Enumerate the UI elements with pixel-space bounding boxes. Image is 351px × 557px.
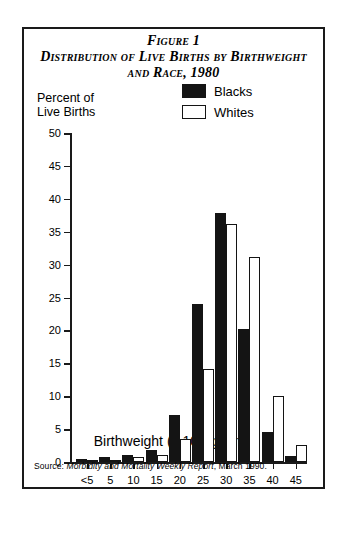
bar-whites-lt5 xyxy=(87,460,98,462)
legend-item-whites: Whites xyxy=(182,103,254,121)
figure-title-line-1: Distribution of Live Births by Birthweig… xyxy=(24,49,323,65)
x-tick xyxy=(273,463,275,469)
legend-label-blacks: Blacks xyxy=(214,84,252,99)
plot-area: 05101520253035404550 <551015202530354045 xyxy=(70,133,305,462)
bar-blacks-40 xyxy=(262,432,273,462)
legend-label-whites: Whites xyxy=(214,105,254,120)
source-date: , March 1990. xyxy=(214,461,267,471)
bar-blacks-20 xyxy=(169,415,180,462)
x-tick-label: 45 xyxy=(281,474,311,486)
bar-whites-35 xyxy=(249,257,260,462)
bar-blacks-35 xyxy=(238,329,249,462)
y-tick xyxy=(64,363,70,365)
y-tick-label: 50 xyxy=(37,128,61,138)
y-tick-label: 35 xyxy=(37,227,61,237)
y-tick xyxy=(64,265,70,267)
y-tick xyxy=(64,199,70,201)
bar-blacks-5 xyxy=(99,457,110,462)
y-tick xyxy=(64,298,70,300)
figure-number: Figure 1 xyxy=(24,33,323,49)
y-tick-label: 30 xyxy=(37,260,61,270)
y-tick xyxy=(64,396,70,398)
y-tick-label: 10 xyxy=(37,391,61,401)
figure-title-line-2: and Race, 1980 xyxy=(24,65,323,81)
y-tick-label: 15 xyxy=(37,358,61,368)
legend-item-blacks: Blacks xyxy=(182,82,254,100)
bar-whites-15 xyxy=(157,455,168,462)
y-tick xyxy=(64,166,70,168)
source-note: Source: Morbidity and Mortality Weekly R… xyxy=(34,461,267,471)
bar-whites-30 xyxy=(226,224,237,462)
y-tick-label: 40 xyxy=(37,194,61,204)
figure-title: Figure 1 Distribution of Live Births by … xyxy=(24,33,323,81)
bar-blacks-45 xyxy=(285,456,296,462)
bar-whites-20 xyxy=(180,439,191,462)
x-tick xyxy=(296,463,298,469)
bar-blacks-lt5 xyxy=(76,459,87,462)
y-tick xyxy=(64,232,70,234)
legend-swatch-blacks xyxy=(182,84,206,98)
y-tick-label: 20 xyxy=(37,325,61,335)
source-publication: Morbidity and Mortality Weekly Report xyxy=(66,461,213,471)
y-tick xyxy=(64,429,70,431)
y-tick xyxy=(64,133,70,135)
y-axis-line xyxy=(70,133,72,462)
bar-whites-40 xyxy=(273,396,284,462)
bar-whites-10 xyxy=(133,457,144,462)
bar-blacks-30 xyxy=(215,213,226,462)
y-tick xyxy=(64,330,70,332)
legend: Blacks Whites xyxy=(182,82,254,124)
bar-blacks-10 xyxy=(122,455,133,462)
bar-blacks-25 xyxy=(192,304,203,462)
source-prefix: Source: xyxy=(34,461,66,471)
y-tick-label: 45 xyxy=(37,161,61,171)
bar-blacks-15 xyxy=(146,450,157,462)
y-axis-caption: Percent of Live Births xyxy=(37,91,95,119)
bar-whites-25 xyxy=(203,369,214,462)
figure-card: Figure 1 Distribution of Live Births by … xyxy=(22,27,325,489)
legend-swatch-whites xyxy=(182,105,206,119)
bar-whites-45 xyxy=(296,445,307,462)
y-tick-label: 25 xyxy=(37,293,61,303)
bar-whites-5 xyxy=(110,460,121,462)
